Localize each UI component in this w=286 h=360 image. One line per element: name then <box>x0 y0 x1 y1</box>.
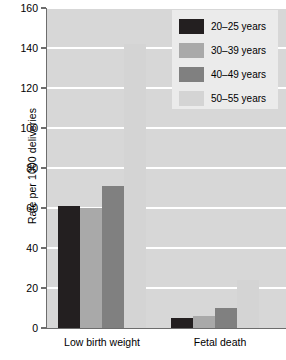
y-tick-label-160: 160 <box>0 3 38 14</box>
legend-item-3: 50–55 years <box>179 90 266 106</box>
legend-label-2: 40–49 years <box>211 69 266 80</box>
bar-0-0 <box>58 206 80 328</box>
x-axis-label-fetal-death: Fetal death <box>170 336 270 348</box>
bar-0-1 <box>80 208 102 328</box>
gridline-100 <box>47 127 286 129</box>
legend-swatch-3 <box>179 91 204 106</box>
y-tick-label-140: 140 <box>0 43 38 54</box>
y-tick-label-80: 80 <box>0 163 38 174</box>
y-tick-120 <box>41 87 46 88</box>
bar-1-3 <box>237 280 259 328</box>
bar-0-3 <box>124 44 146 328</box>
y-tick-label-0: 0 <box>0 323 38 334</box>
bar-1-2 <box>215 308 237 328</box>
legend-swatch-1 <box>179 43 204 58</box>
y-tick-80 <box>41 167 46 168</box>
bar-chart: Rate per 1000 deliveries 020406080100120… <box>0 0 286 360</box>
y-tick-label-120: 120 <box>0 83 38 94</box>
y-tick-40 <box>41 247 46 248</box>
y-tick-140 <box>41 47 46 48</box>
legend-label-0: 20–25 years <box>211 21 266 32</box>
x-axis-label-low-birth-weight: Low birth weight <box>47 336 157 348</box>
legend-label-1: 30–39 years <box>211 45 266 56</box>
y-tick-20 <box>41 287 46 288</box>
legend-swatch-0 <box>179 19 204 34</box>
legend-label-3: 50–55 years <box>211 93 266 104</box>
y-axis-line <box>46 8 47 329</box>
gridline-160 <box>47 8 286 9</box>
legend: 20–25 years30–39 years40–49 years50–55 y… <box>172 10 278 109</box>
y-tick-0 <box>41 327 46 328</box>
y-tick-label-100: 100 <box>0 123 38 134</box>
legend-swatch-2 <box>179 67 204 82</box>
y-tick-label-40: 40 <box>0 243 38 254</box>
y-tick-100 <box>41 127 46 128</box>
legend-item-2: 40–49 years <box>179 66 266 82</box>
bar-0-2 <box>102 186 124 328</box>
y-tick-label-20: 20 <box>0 283 38 294</box>
y-tick-60 <box>41 207 46 208</box>
y-tick-label-60: 60 <box>0 203 38 214</box>
bar-1-0 <box>171 318 193 328</box>
legend-item-0: 20–25 years <box>179 18 266 34</box>
gridline-80 <box>47 167 286 169</box>
legend-item-1: 30–39 years <box>179 42 266 58</box>
bar-1-1 <box>193 316 215 328</box>
y-tick-160 <box>41 7 46 8</box>
x-axis-line <box>46 328 286 329</box>
